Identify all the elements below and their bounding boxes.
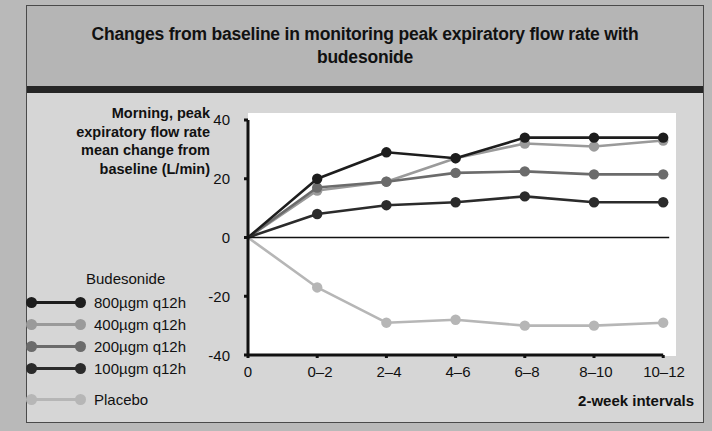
series-2 — [248, 135, 668, 237]
y-tick-20: 20 — [180, 170, 230, 187]
x-tick-0: 0 — [244, 363, 252, 380]
legend-spacer — [18, 379, 233, 388]
data-point — [589, 132, 599, 142]
data-point — [589, 320, 599, 330]
data-point — [589, 169, 599, 179]
legend-label-placebo: Placebo — [94, 391, 148, 408]
x-tick-4-6: 4–6 — [445, 363, 470, 380]
legend-marker-icon-placebo — [26, 392, 86, 406]
chart-figure: Changes from baseline in monitoring peak… — [0, 0, 712, 431]
data-point — [381, 176, 391, 186]
data-point — [450, 197, 460, 207]
data-point — [658, 169, 668, 179]
data-point — [381, 317, 391, 327]
y-tick-40: 40 — [180, 111, 230, 128]
data-point — [381, 200, 391, 210]
legend-label-100: 100µgm q12h — [94, 360, 186, 377]
y-tick-neg20: -20 — [180, 288, 230, 305]
x-tick-10-12: 10–12 — [643, 363, 685, 380]
chart-title: Changes from baseline in monitoring peak… — [65, 23, 665, 70]
data-point — [450, 315, 460, 325]
chart-svg — [244, 113, 674, 358]
data-point — [450, 153, 460, 163]
data-point — [520, 132, 530, 142]
data-point — [658, 132, 668, 142]
data-point — [312, 282, 322, 292]
legend-label-800: 800µgm q12h — [94, 294, 186, 311]
x-tick-0-2: 0–2 — [307, 363, 332, 380]
legend-marker-icon-200 — [26, 339, 86, 353]
legend-marker-icon-400 — [26, 317, 86, 331]
x-axis-caption: 2-week intervals — [578, 392, 694, 409]
y-tick-neg40: -40 — [180, 347, 230, 364]
legend-label-200: 200µgm q12h — [94, 338, 186, 355]
legend-title: Budesonide — [86, 270, 233, 287]
x-tick-6-8: 6–8 — [514, 363, 539, 380]
x-tick-8-10: 8–10 — [579, 363, 612, 380]
x-tick-2-4: 2–4 — [376, 363, 401, 380]
series-line — [248, 238, 663, 326]
data-point — [658, 197, 668, 207]
data-point — [589, 197, 599, 207]
data-point — [381, 147, 391, 157]
y-tick-0: 0 — [180, 229, 230, 246]
title-divider — [27, 86, 703, 93]
data-point — [450, 168, 460, 178]
series-line — [248, 138, 663, 238]
legend-marker-icon-800 — [26, 295, 86, 309]
data-point — [520, 166, 530, 176]
legend-marker-icon-100 — [26, 361, 86, 375]
title-band: Changes from baseline in monitoring peak… — [27, 6, 703, 86]
legend-item-400: 400µgm q12h — [18, 313, 233, 335]
data-point — [312, 209, 322, 219]
data-point — [520, 191, 530, 201]
legend-label-400: 400µgm q12h — [94, 316, 186, 333]
series-1 — [248, 132, 668, 237]
series-5 — [248, 238, 668, 331]
series-4 — [248, 191, 668, 237]
data-point — [312, 174, 322, 184]
data-point — [658, 317, 668, 327]
series-layer — [248, 132, 668, 330]
legend-item-placebo: Placebo — [18, 388, 233, 410]
data-point — [520, 320, 530, 330]
plot-area — [244, 113, 674, 358]
